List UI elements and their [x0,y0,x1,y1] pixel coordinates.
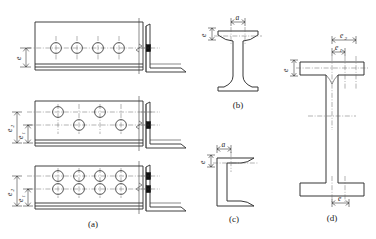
caption-c: (c) [229,214,239,224]
dim-label-e-c: e [198,160,207,164]
dim-label-e1-row2: e [16,135,25,139]
wide-flange-section-d [300,62,364,196]
dim-label-a-b: a [236,13,240,22]
dim-label-e-row1: e [14,56,23,60]
caption-d: (d) [327,213,338,223]
caption-a: (a) [88,219,98,229]
i-beam-section-b [218,31,258,91]
dim-label-e2-row3: e [5,192,14,196]
panel-b-i-beam: a e [199,13,262,92]
dim-label-e1-d: e [335,43,339,52]
panel-a-row-staggered: e 2 e 1 [5,96,186,151]
engineering-figure: e [0,0,376,239]
dim-label-e2-row2: e [5,128,14,132]
dim-label-e1-sub-row2: 1 [21,132,26,135]
panel-d-wide-flange: e 2 e 1 e e [281,31,368,208]
dim-label-a-c: a [222,140,226,149]
dim-label-e1-sub-d: 1 [340,48,343,53]
caption-b: (b) [233,100,244,110]
figure-canvas: e [0,0,376,239]
dim-label-e1-sub-row3: 1 [21,195,26,198]
dim-label-e2-sub-row2: 2 [10,125,15,128]
dim-label-e1-row3: e [16,198,25,202]
dim-label-e2-d: e [340,31,344,40]
angle-end-elevation-row3 [146,165,186,211]
dim-label-e-b: e [199,33,208,37]
panel-a-row-double: e 2 e 1 [5,161,186,214]
panel-c-channel: a e [198,140,258,207]
dim-label-e-d: e [281,68,290,72]
angle-plate-outline-row2 [35,101,143,146]
dim-label-e2-sub-row3: 2 [10,189,15,192]
channel-section-c [217,158,254,206]
panel-a-row-single: e [14,18,186,74]
